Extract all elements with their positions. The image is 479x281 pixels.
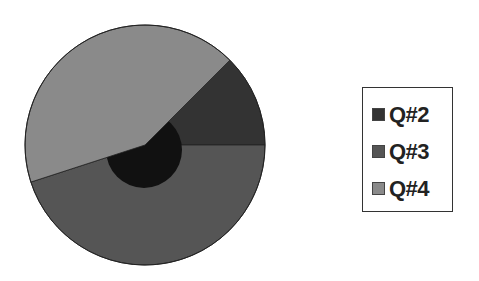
pie-slices	[25, 25, 265, 265]
legend: Q#2 Q#3 Q#4	[362, 87, 453, 212]
legend-label-q4: Q#4	[389, 176, 429, 202]
legend-item-q3: Q#3	[372, 133, 452, 170]
legend-label-q2: Q#2	[389, 102, 429, 128]
legend-item-q2: Q#2	[372, 96, 452, 133]
legend-swatch-q4	[372, 182, 385, 195]
legend-swatch-q3	[372, 145, 385, 158]
legend-item-q4: Q#4	[372, 170, 452, 207]
legend-swatch-q2	[372, 108, 385, 121]
legend-label-q3: Q#3	[389, 139, 429, 165]
